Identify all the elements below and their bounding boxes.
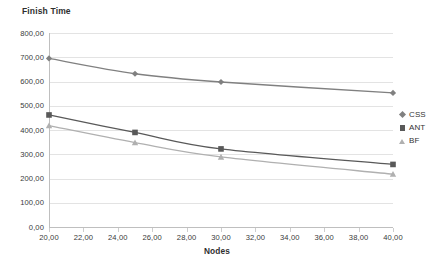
x-tick-mark bbox=[359, 228, 360, 232]
y-tick-label: 400,00 bbox=[20, 126, 44, 135]
gridline-y bbox=[49, 33, 393, 34]
x-tick-label: 26,00 bbox=[142, 233, 162, 242]
legend-label: BF bbox=[409, 137, 419, 145]
gridline-y bbox=[49, 203, 393, 204]
diamond-marker-icon bbox=[398, 110, 407, 119]
line-chart: Finish Time 0,00100,00200,00300,00400,00… bbox=[0, 0, 434, 263]
x-tick-mark bbox=[393, 228, 394, 232]
gridline-y bbox=[49, 130, 393, 131]
plot-area bbox=[49, 33, 393, 227]
x-tick-label: 38,00 bbox=[349, 233, 369, 242]
gridline-y bbox=[49, 154, 393, 155]
marker-glyph bbox=[399, 139, 405, 144]
y-tick-label: 600,00 bbox=[20, 77, 44, 86]
marker-glyph bbox=[400, 125, 406, 131]
x-tick-label: 28,00 bbox=[177, 233, 197, 242]
gridline-y bbox=[49, 106, 393, 107]
square-marker-icon bbox=[398, 123, 407, 132]
x-tick-mark bbox=[152, 228, 153, 232]
legend-label: ANT bbox=[409, 124, 425, 132]
gridline-y bbox=[49, 82, 393, 83]
x-tick-label: 36,00 bbox=[314, 233, 334, 242]
x-tick-mark bbox=[221, 228, 222, 232]
x-tick-mark bbox=[49, 228, 50, 232]
x-tick-mark bbox=[118, 228, 119, 232]
legend-item-css[interactable]: CSS bbox=[398, 108, 434, 121]
x-tick-label: 40,00 bbox=[383, 233, 403, 242]
x-tick-mark bbox=[255, 228, 256, 232]
legend-label: CSS bbox=[409, 111, 426, 119]
gridline-y bbox=[49, 57, 393, 58]
y-tick-label: 0,00 bbox=[29, 223, 44, 232]
x-tick-mark bbox=[324, 228, 325, 232]
marker-glyph bbox=[399, 111, 406, 118]
x-tick-label: 32,00 bbox=[246, 233, 266, 242]
gridline-y bbox=[49, 179, 393, 180]
y-tick-label: 200,00 bbox=[20, 174, 44, 183]
chart-legend: CSSANTBF bbox=[398, 108, 434, 147]
y-tick-label: 700,00 bbox=[20, 53, 44, 62]
x-tick-mark bbox=[290, 228, 291, 232]
legend-item-ant[interactable]: ANT bbox=[398, 121, 434, 134]
x-tick-label: 30,00 bbox=[211, 233, 231, 242]
y-axis-tick-labels: 0,00100,00200,00300,00400,00500,00600,00… bbox=[0, 0, 44, 263]
legend-item-bf[interactable]: BF bbox=[398, 134, 434, 147]
triangle-marker-icon bbox=[398, 136, 407, 145]
y-tick-label: 500,00 bbox=[20, 101, 44, 110]
y-tick-label: 300,00 bbox=[20, 150, 44, 159]
x-tick-label: 22,00 bbox=[74, 233, 94, 242]
x-tick-mark bbox=[187, 228, 188, 232]
x-tick-label: 24,00 bbox=[108, 233, 128, 242]
y-tick-label: 800,00 bbox=[20, 29, 44, 38]
x-tick-label: 20,00 bbox=[39, 233, 59, 242]
x-tick-label: 34,00 bbox=[280, 233, 300, 242]
y-tick-label: 100,00 bbox=[20, 198, 44, 207]
x-tick-mark bbox=[83, 228, 84, 232]
x-axis-title: Nodes bbox=[0, 246, 434, 256]
y-axis-line bbox=[49, 33, 50, 228]
